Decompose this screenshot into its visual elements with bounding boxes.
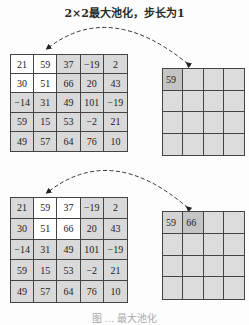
- input-cell: 64: [57, 281, 80, 302]
- input-cell: 37: [57, 198, 80, 219]
- input-cell: 59: [11, 113, 34, 132]
- input-cell: 57: [34, 132, 57, 151]
- output-cell: 59: [163, 212, 183, 234]
- input-cell: 21: [104, 260, 127, 281]
- input-cell: 59: [34, 55, 57, 74]
- output-matrix-step-2: 5966: [162, 211, 245, 300]
- input-cell: 49: [57, 93, 80, 112]
- input-cell: 31: [34, 93, 57, 112]
- input-cell: 49: [57, 240, 80, 261]
- input-cell: −14: [11, 93, 34, 112]
- output-cell: [224, 134, 244, 156]
- input-cell: 43: [104, 74, 127, 93]
- output-cell: 66: [183, 212, 203, 234]
- input-matrix-step-1: 215937−1923051662043−143149101−19591553−…: [10, 54, 128, 152]
- input-cell: 53: [57, 260, 80, 281]
- input-cell: 64: [57, 132, 80, 151]
- output-cell: [183, 234, 203, 256]
- output-cell: [163, 134, 183, 156]
- input-cell: 20: [81, 74, 104, 93]
- output-cell: [224, 212, 244, 234]
- input-cell: 31: [34, 240, 57, 261]
- output-cell: [224, 91, 244, 113]
- output-cell: [183, 112, 203, 134]
- input-cell: 37: [57, 55, 80, 74]
- input-cell: −19: [81, 55, 104, 74]
- input-cell: 21: [11, 55, 34, 74]
- input-matrix-step-2: 215937−1923051662043−143149101−19591553−…: [10, 197, 128, 303]
- input-cell: 66: [57, 219, 80, 240]
- output-cell: [224, 234, 244, 256]
- output-matrix-step-1: 59: [162, 68, 245, 156]
- input-cell: 101: [81, 240, 104, 261]
- output-cell: [224, 277, 244, 299]
- input-cell: 30: [11, 219, 34, 240]
- input-cell: 49: [11, 132, 34, 151]
- input-cell: 21: [11, 198, 34, 219]
- input-cell: 76: [81, 132, 104, 151]
- output-cell: [183, 277, 203, 299]
- input-cell: −19: [104, 240, 127, 261]
- input-cell: 15: [34, 260, 57, 281]
- input-cell: 59: [34, 198, 57, 219]
- input-cell: 51: [34, 74, 57, 93]
- figure-caption: 图 ... 最大池化: [0, 310, 249, 325]
- output-cell: [204, 91, 224, 113]
- output-cell: [183, 256, 203, 278]
- input-cell: 10: [104, 132, 127, 151]
- input-cell: 21: [104, 113, 127, 132]
- output-cell: [163, 256, 183, 278]
- output-cell: [204, 112, 224, 134]
- input-cell: 2: [104, 55, 127, 74]
- input-cell: −14: [11, 240, 34, 261]
- output-cell: [224, 256, 244, 278]
- input-cell: 57: [34, 281, 57, 302]
- output-cell: [224, 112, 244, 134]
- output-cell: 59: [163, 69, 183, 91]
- input-cell: −19: [104, 93, 127, 112]
- input-cell: −19: [81, 198, 104, 219]
- input-cell: 43: [104, 219, 127, 240]
- input-cell: 49: [11, 281, 34, 302]
- input-cell: −2: [81, 113, 104, 132]
- input-cell: 10: [104, 281, 127, 302]
- output-cell: [204, 69, 224, 91]
- input-cell: 51: [34, 219, 57, 240]
- output-cell: [204, 277, 224, 299]
- output-cell: [224, 69, 244, 91]
- input-cell: 20: [81, 219, 104, 240]
- input-cell: 30: [11, 74, 34, 93]
- output-cell: [204, 256, 224, 278]
- input-cell: 53: [57, 113, 80, 132]
- output-cell: [204, 212, 224, 234]
- output-cell: [204, 234, 224, 256]
- input-cell: 15: [34, 113, 57, 132]
- input-cell: 101: [81, 93, 104, 112]
- input-cell: 76: [81, 281, 104, 302]
- input-cell: 2: [104, 198, 127, 219]
- output-cell: [183, 91, 203, 113]
- input-cell: 59: [11, 260, 34, 281]
- input-cell: 66: [57, 74, 80, 93]
- input-cell: −2: [81, 260, 104, 281]
- output-cell: [204, 134, 224, 156]
- output-cell: [163, 91, 183, 113]
- output-cell: [163, 277, 183, 299]
- output-cell: [183, 69, 203, 91]
- output-cell: [183, 134, 203, 156]
- output-cell: [163, 112, 183, 134]
- output-cell: [163, 234, 183, 256]
